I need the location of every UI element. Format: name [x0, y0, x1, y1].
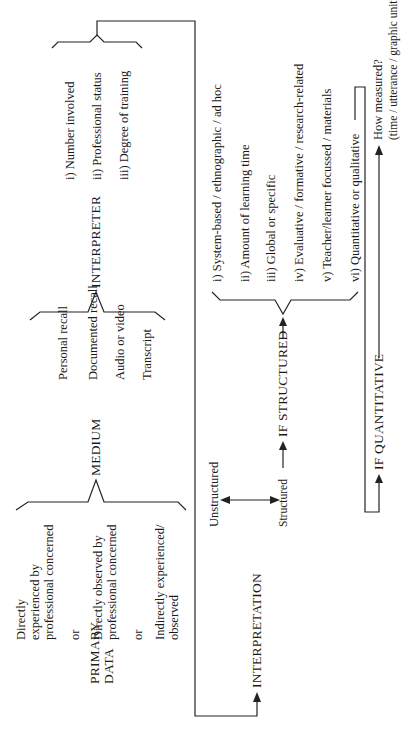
- arrowhead-up: [220, 496, 230, 504]
- medium-option-documented-recall: Documented recall: [86, 285, 100, 380]
- medium-option-personal-recall: Personal recall: [56, 306, 70, 380]
- medium-label: MEDIUM: [89, 419, 103, 476]
- structured-option-5: v) Teacher/learner focussed / materials: [320, 89, 334, 282]
- interpreter-label: INTERPRETER: [89, 196, 103, 288]
- arrowhead-interpretation: [253, 692, 261, 702]
- primary-option-2: Directly observed by professional concer…: [91, 524, 119, 640]
- primary-or-2: or: [131, 630, 145, 640]
- brace-structured-options: [212, 292, 358, 314]
- structured-label: Structured: [276, 479, 290, 527]
- structured-option-3: iii) Global or specific: [264, 175, 278, 282]
- interpretation-label: INTERPRETATION: [250, 573, 264, 688]
- interpreter-option-number: i) Number involved: [63, 81, 77, 180]
- primary-option-3: Indirectly experienced/ observed: [153, 524, 181, 640]
- unstructured-label: Unstructured: [207, 462, 221, 527]
- interpreter-option-training: iii) Degree of training: [117, 71, 131, 180]
- brace-primary-to-medium: [16, 480, 186, 510]
- how-measured-label: How measured?: [371, 59, 385, 140]
- interpreter-option-status: ii) Professional status: [90, 72, 104, 180]
- if-structured-label: IF STRUCTURED: [276, 331, 290, 438]
- structured-option-2: ii) Amount of learning time: [238, 145, 252, 282]
- structured-option-6: vi) Quantitative or qualitative: [348, 134, 362, 282]
- medium-option-audio-video: Audio or video: [113, 304, 127, 380]
- medium-option-transcript: Transcript: [140, 329, 154, 380]
- if-quantitative-label: IF QUANTITATIVE: [372, 354, 386, 470]
- structured-option-4: iv) Evaluative / formative / research-re…: [292, 64, 306, 282]
- brace-interpreter-options: [52, 35, 142, 48]
- primary-or-1: or: [68, 630, 82, 640]
- how-measured-detail: (time / utterance / graphic unit / other…: [386, 0, 400, 140]
- structured-option-1: i) System-based / ethnographic / ad hoc: [210, 84, 224, 282]
- primary-option-1: Directly experienced by professional con…: [14, 524, 56, 640]
- research-data-flow-diagram: PRIMARY DATA Directly experienced by pro…: [0, 0, 411, 732]
